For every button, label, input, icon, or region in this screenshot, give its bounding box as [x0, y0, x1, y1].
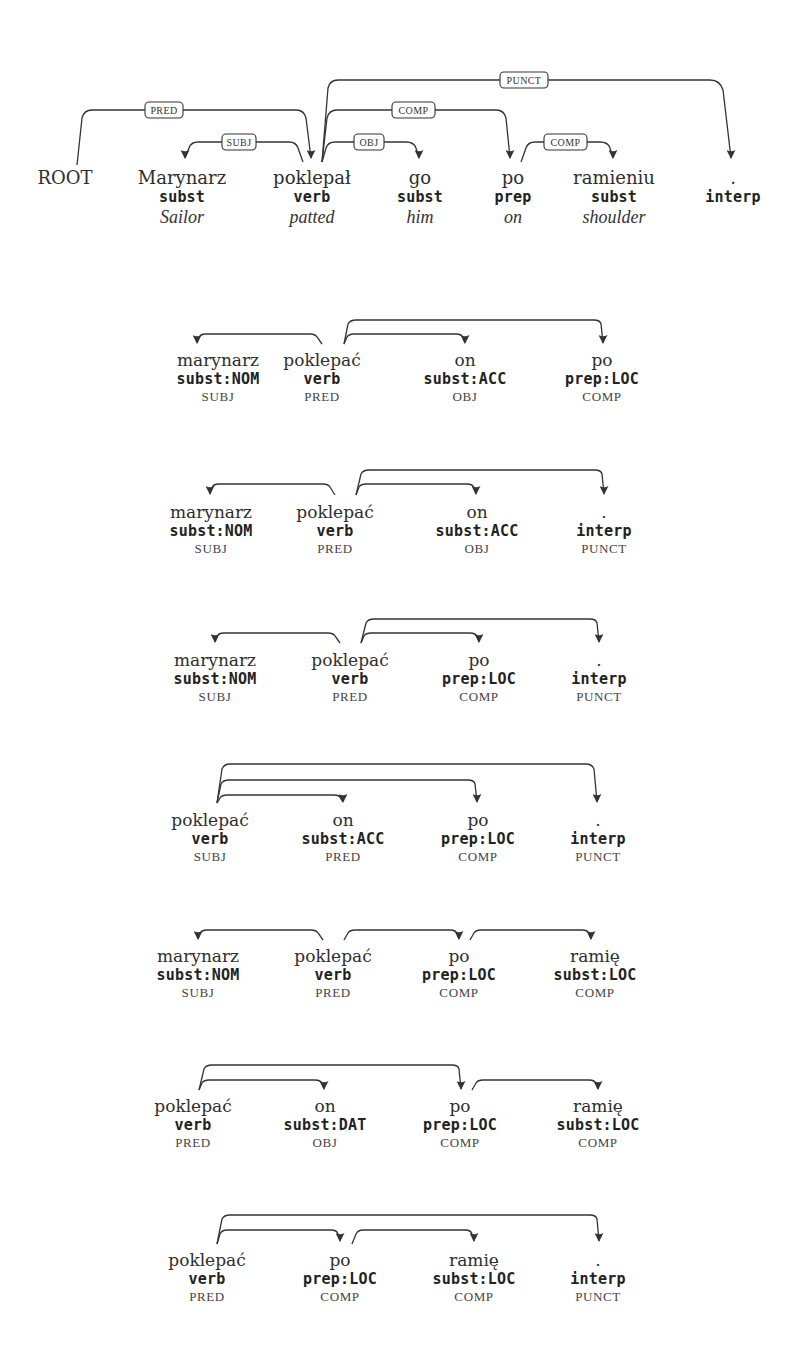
tag: prep:LOC [565, 370, 639, 389]
subtree-token: poprep:LOCCOMP [442, 650, 516, 705]
subtree-token: poklepaćverbPRED [294, 946, 371, 1001]
token-gloss: patted [273, 207, 351, 227]
subtree-token: .interpPUNCT [571, 650, 626, 705]
tag: interp [570, 1270, 625, 1289]
tag: verb [296, 522, 373, 541]
tag: subst:ACC [301, 830, 384, 849]
lemma: . [576, 502, 631, 522]
lemma: marynarz [173, 650, 256, 670]
arc-label-punct: PUNCT [507, 75, 542, 86]
role: PRED [154, 1135, 231, 1151]
subtree-token: .interpPUNCT [570, 810, 625, 865]
tag: interp [571, 670, 626, 689]
lemma: poklepać [311, 650, 388, 670]
lemma: ramię [556, 1096, 639, 1116]
tag: interp [576, 522, 631, 541]
token-period: . interp [705, 168, 760, 207]
tag: verb [311, 670, 388, 689]
token-word: po [495, 168, 532, 188]
token-poklepal: poklepał verb patted [273, 168, 351, 227]
tag: verb [154, 1116, 231, 1135]
token-gloss: shoulder [573, 207, 655, 227]
subtree-token: ramięsubst:LOCCOMP [556, 1096, 639, 1151]
lemma: . [570, 1250, 625, 1270]
arc-label-pred: PRED [150, 105, 177, 116]
role: PUNCT [576, 541, 631, 557]
tag: prep:LOC [442, 670, 516, 689]
subtree-token: onsubst:DATOBJ [283, 1096, 366, 1151]
tag: subst:DAT [283, 1116, 366, 1135]
arc-label-comp-2: COMP [551, 137, 581, 148]
role: OBJ [423, 389, 506, 405]
role: COMP [553, 985, 636, 1001]
tag: subst:NOM [173, 670, 256, 689]
token-gloss: him [397, 207, 443, 227]
tag: subst:NOM [176, 370, 259, 389]
lemma: ramię [432, 1250, 515, 1270]
token-tag: prep [495, 188, 532, 207]
arc-label-subj: SUBJ [227, 137, 252, 148]
lemma: marynarz [169, 502, 252, 522]
tag: verb [294, 966, 371, 985]
role: COMP [432, 1289, 515, 1305]
role: PRED [294, 985, 371, 1001]
subtree-token: poklepaćverbPRED [296, 502, 373, 557]
role: COMP [441, 849, 515, 865]
role: SUBJ [171, 849, 248, 865]
role: SUBJ [169, 541, 252, 557]
subtree-token: poprep:LOCCOMP [565, 350, 639, 405]
tag: subst:NOM [156, 966, 239, 985]
subtree-token: onsubst:ACCOBJ [435, 502, 518, 557]
tag: prep:LOC [441, 830, 515, 849]
role: SUBJ [156, 985, 239, 1001]
subtree-token: poprep:LOCCOMP [423, 1096, 497, 1151]
token-gloss: on [495, 207, 532, 227]
tag: prep:LOC [303, 1270, 377, 1289]
role: SUBJ [173, 689, 256, 705]
role: COMP [422, 985, 496, 1001]
lemma: po [422, 946, 496, 966]
role: OBJ [283, 1135, 366, 1151]
token-ramieniu: ramieniu subst shoulder [573, 168, 655, 227]
token-tag: subst [138, 188, 226, 207]
role: SUBJ [176, 389, 259, 405]
role: PUNCT [570, 849, 625, 865]
dependency-figure: PRED SUBJ OBJ COMP PUNCT COMP ROOT Maryn… [0, 0, 808, 1360]
role: PRED [301, 849, 384, 865]
tag: subst:ACC [435, 522, 518, 541]
role: PRED [311, 689, 388, 705]
token-tag: interp [705, 188, 760, 207]
tag: verb [283, 370, 360, 389]
lemma: poklepać [171, 810, 248, 830]
token-tag: subst [573, 188, 655, 207]
subtree-token: poprep:LOCCOMP [441, 810, 515, 865]
token-word: Marynarz [138, 168, 226, 188]
root-node: ROOT [37, 168, 92, 188]
tag: verb [168, 1270, 245, 1289]
lemma: on [435, 502, 518, 522]
subtree-token: poprep:LOCCOMP [422, 946, 496, 1001]
arc-label-obj: OBJ [360, 137, 379, 148]
token-word: poklepał [273, 168, 351, 188]
subtree-token: poprep:LOCCOMP [303, 1250, 377, 1305]
lemma: marynarz [176, 350, 259, 370]
lemma: po [423, 1096, 497, 1116]
lemma: . [570, 810, 625, 830]
lemma: on [301, 810, 384, 830]
lemma: po [565, 350, 639, 370]
lemma: po [441, 810, 515, 830]
token-go: go subst him [397, 168, 443, 227]
role: COMP [442, 689, 516, 705]
role: COMP [303, 1289, 377, 1305]
tag: subst:LOC [553, 966, 636, 985]
subtree-token: poklepaćverbPRED [311, 650, 388, 705]
lemma: poklepać [283, 350, 360, 370]
tag: prep:LOC [423, 1116, 497, 1135]
subtree-token: marynarzsubst:NOMSUBJ [156, 946, 239, 1001]
arc-pred [77, 110, 311, 165]
lemma: . [571, 650, 626, 670]
subtree-token: marynarzsubst:NOMSUBJ [169, 502, 252, 557]
lemma: ramię [553, 946, 636, 966]
role: COMP [556, 1135, 639, 1151]
token-marynarz: Marynarz subst Sailor [138, 168, 226, 227]
